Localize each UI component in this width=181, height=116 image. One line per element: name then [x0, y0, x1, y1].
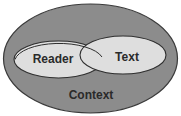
text-label: Text	[115, 50, 139, 64]
venn-svg: Reader Text Context	[0, 0, 181, 116]
reader-label: Reader	[33, 52, 74, 66]
context-label: Context	[69, 88, 114, 102]
venn-diagram: Reader Text Context	[0, 0, 181, 116]
